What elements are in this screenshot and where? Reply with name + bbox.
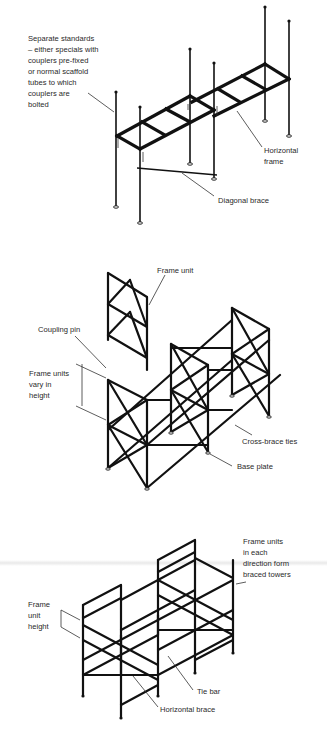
- label-frame-units-vary: Frame units vary in height: [29, 368, 69, 401]
- label-diagonal-brace: Diagonal brace: [218, 195, 269, 206]
- tower-left: [83, 585, 158, 717]
- diagonal-brace: [137, 168, 217, 175]
- label-horizontal-frame: Horizontal frame: [264, 145, 298, 167]
- panel-frame-units: Frame unit Coupling pin Frame units vary…: [0, 240, 327, 510]
- label-base-plate: Base plate: [237, 461, 273, 472]
- leader-horizontal-frame: [237, 111, 262, 147]
- label-frame-unit-height: Frame unit height: [28, 599, 50, 632]
- label-frame-units-towers: Frame units in each direction form brace…: [243, 536, 291, 580]
- leader-base-plate: [210, 454, 232, 466]
- label-horizontal-brace: Horizontal brace: [160, 704, 215, 715]
- label-cross-brace-ties: Cross-brace ties: [242, 436, 297, 447]
- label-tie-bar: Tie bar: [197, 686, 220, 697]
- leader-frame-units-towers: [236, 582, 246, 584]
- tie-bars: [121, 560, 233, 675]
- height-dimension: [76, 364, 106, 420]
- label-separate-standards: Separate standards – either specials wit…: [28, 33, 99, 110]
- leader-frame-unit: [149, 275, 165, 305]
- leader-coupling-pin: [75, 336, 106, 368]
- unit-height-dimension: [61, 610, 80, 638]
- leader-horizontal-brace: [133, 676, 158, 707]
- leader-diagonal-brace: [182, 173, 214, 196]
- horizontal-frame: [117, 64, 289, 149]
- frame-units-lower-left: [108, 380, 147, 488]
- panel-braced-towers: Frame units in each direction form brace…: [0, 500, 327, 747]
- panel-separate-standards: Separate standards – either specials wit…: [0, 0, 327, 240]
- leader-tie-bar: [168, 656, 193, 690]
- label-frame-unit: Frame unit: [157, 265, 193, 276]
- frame-unit-upper: [108, 273, 147, 370]
- leader-cross-brace-ties: [235, 425, 252, 435]
- label-coupling-pin: Coupling pin: [38, 324, 80, 335]
